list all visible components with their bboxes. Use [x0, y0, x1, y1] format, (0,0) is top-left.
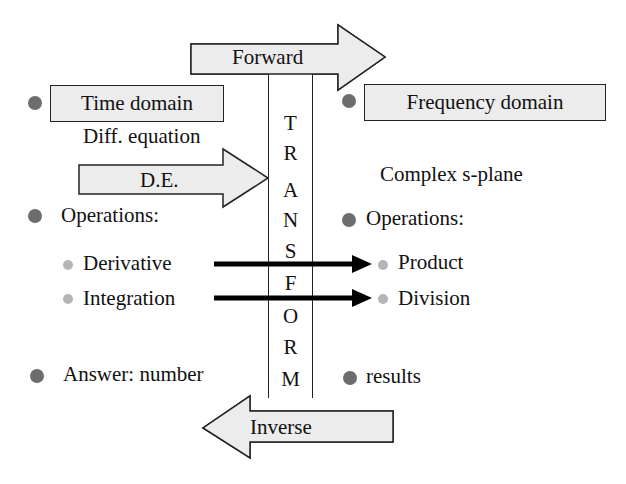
- time-domain-subtitle: Diff. equation: [83, 126, 200, 147]
- frequency-domain-box: Frequency domain: [364, 84, 606, 121]
- bullet-icon: [343, 371, 357, 385]
- time-domain-title: Time domain: [81, 91, 193, 116]
- sub-bullet-icon: [378, 260, 388, 270]
- bullet-icon: [28, 96, 42, 110]
- bullet-icon: [342, 94, 356, 108]
- bullet-icon: [30, 369, 44, 383]
- inverse-label: Inverse: [250, 417, 312, 438]
- sub-bullet-icon: [378, 294, 388, 304]
- left-operations-label: Operations:: [61, 205, 159, 226]
- forward-label: Forward: [232, 47, 303, 68]
- left-answer: Answer: number: [63, 364, 204, 385]
- left-operation-item: Integration: [83, 288, 175, 309]
- frequency-domain-subtitle: Complex s-plane: [380, 164, 523, 185]
- left-operation-item: Derivative: [83, 253, 172, 274]
- time-domain-box: Time domain: [50, 85, 224, 122]
- de-label: D.E.: [140, 170, 179, 191]
- bullet-icon: [28, 209, 42, 223]
- sub-bullet-icon: [63, 294, 73, 304]
- right-operation-item: Division: [398, 288, 470, 309]
- bullet-icon: [342, 213, 356, 227]
- right-answer: results: [366, 366, 421, 387]
- arrow-overlay: [0, 0, 626, 484]
- frequency-domain-title: Frequency domain: [407, 90, 564, 115]
- sub-bullet-icon: [63, 260, 73, 270]
- right-operations-label: Operations:: [366, 208, 464, 229]
- right-operation-item: Product: [398, 252, 463, 273]
